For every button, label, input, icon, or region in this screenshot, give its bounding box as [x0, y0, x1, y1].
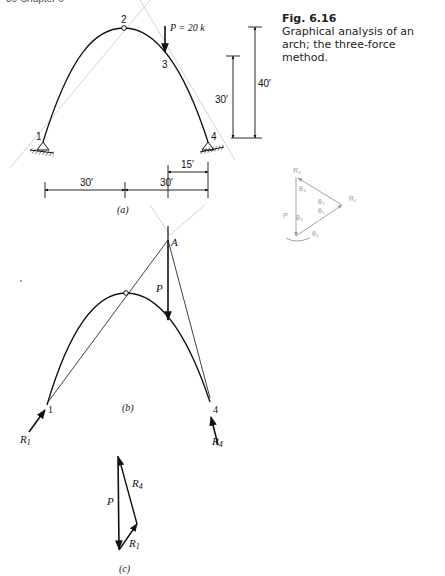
arch-curve-b — [47, 293, 210, 405]
part-c-force-polygon: P R4 R1 (c) — [106, 456, 143, 575]
node-3-label: 3 — [162, 59, 168, 70]
arch-curve — [43, 28, 208, 142]
crown-hinge — [122, 26, 127, 31]
reaction-r1-label: R1 — [19, 433, 31, 447]
speck — [20, 280, 22, 282]
load-label-b: P — [155, 282, 163, 294]
svg-text:P = 20 k: P = 20 k — [169, 22, 205, 33]
svg-text:R₁: R₁ — [349, 195, 357, 202]
pencil-construction-lines — [10, 0, 235, 235]
dim-30-right: 30′ — [160, 177, 173, 188]
line-of-action-r1 — [48, 240, 168, 402]
part-c-label: (c) — [119, 563, 131, 575]
line-of-action-r4 — [168, 240, 210, 398]
force-r4-label: R4 — [131, 477, 143, 491]
support-right-icon — [200, 142, 225, 154]
svg-text:θ₁: θ₁ — [318, 207, 325, 214]
force-p-arrow-icon — [118, 456, 119, 549]
dim-15: 15′ — [181, 159, 194, 170]
node-4-label: 4 — [211, 131, 217, 142]
force-r4-arrow-icon — [119, 458, 137, 524]
dim-30-left: 30′ — [80, 177, 93, 188]
svg-text:θ₂: θ₂ — [318, 198, 325, 205]
dim-40-vertical: 40′ — [258, 78, 271, 89]
svg-text:θ₁: θ₁ — [312, 230, 319, 237]
force-r1-label: R1 — [128, 537, 140, 551]
svg-text:R₄: R₄ — [293, 167, 301, 174]
node-1-label-b: 1 — [48, 404, 53, 415]
pencil-labels: R₄ θ₄ θ₂ θ₁ R₁ P θ₃ θ₁ — [283, 167, 357, 237]
load-label: P = 20 k — [169, 22, 205, 33]
part-b-three-force: A P 1 4 (b) R1 R4 — [19, 226, 223, 449]
svg-text:θ₄: θ₄ — [299, 185, 306, 192]
svg-text:θ₃: θ₃ — [296, 214, 303, 221]
node-2-label: 2 — [121, 14, 127, 25]
part-b-label: (b) — [122, 402, 134, 414]
reaction-r4-label: R4 — [211, 435, 223, 449]
reaction-r1-arrow-icon — [29, 410, 45, 432]
node-4-label-b: 4 — [213, 404, 218, 415]
part-a-label: (a) — [117, 204, 129, 216]
force-p-label: P — [106, 495, 114, 507]
vertical-dimensions — [226, 27, 262, 138]
dim-30-vertical: 30′ — [215, 94, 228, 105]
support-left-icon — [30, 142, 54, 157]
arch-diagram: P = 20 k 2 3 1 4 30′ 40′ 30′ 30′ 15′ (a — [0, 0, 445, 576]
svg-text:P: P — [283, 212, 288, 219]
part-a-arch: P = 20 k 2 3 1 4 30′ 40′ 30′ 30′ 15′ (a — [30, 14, 271, 216]
point-a-label: A — [170, 236, 178, 248]
node-1-label: 1 — [36, 131, 42, 142]
